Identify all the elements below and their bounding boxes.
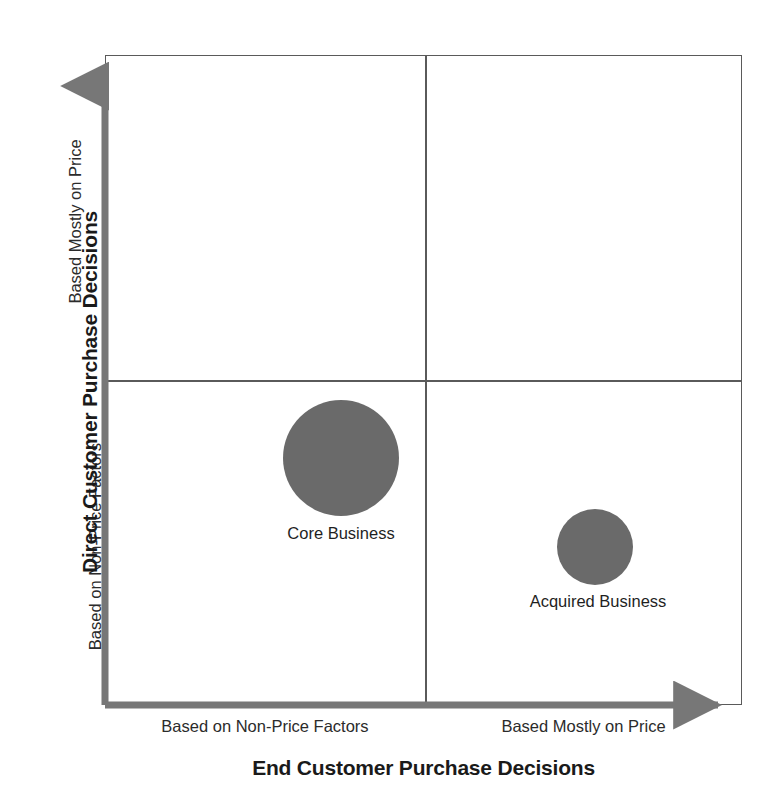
bubble-matrix-chart: Core Business Acquired Business Based Mo… bbox=[0, 0, 779, 793]
x-axis-title: End Customer Purchase Decisions bbox=[105, 756, 742, 780]
y-axis-title: Direct Customer Purchase Decisions bbox=[78, 112, 102, 672]
bubble-label-acquired-business: Acquired Business bbox=[498, 592, 698, 611]
bubble-label-core-business: Core Business bbox=[241, 524, 441, 543]
bubble-acquired-business[interactable] bbox=[557, 509, 633, 585]
bubble-core-business[interactable] bbox=[283, 400, 399, 516]
x-tick-label-left: Based on Non-Price Factors bbox=[105, 717, 425, 736]
quadrant-divider-horizontal bbox=[105, 380, 742, 382]
x-tick-label-right: Based Mostly on Price bbox=[425, 717, 742, 736]
